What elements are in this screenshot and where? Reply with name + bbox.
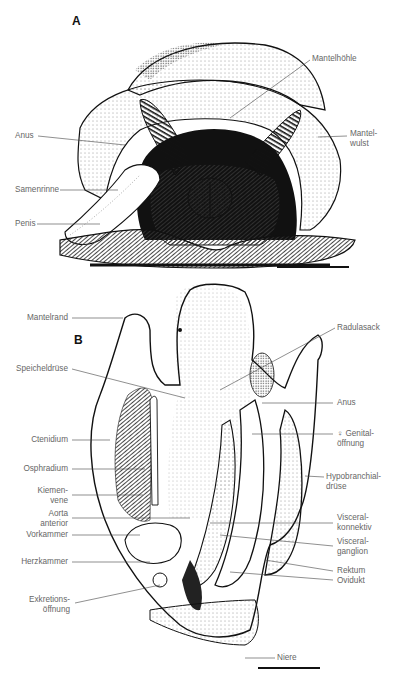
label-vorkammer: Vorkammer [0, 530, 68, 540]
label-ovidukt: Ovidukt [337, 576, 365, 586]
panel-b-letter: B [74, 333, 83, 347]
panel-b-drawing [91, 284, 322, 668]
label-visceralganglion: Visceral- ganglion [337, 537, 369, 556]
label-genitaloeffnung: ♀ Genital- öffnung [337, 429, 374, 448]
label-kiemenvene: Kiemen- vene [0, 486, 68, 505]
label-speicheldruese: Speicheldrüse [0, 364, 68, 374]
label-penis: Penis [15, 219, 35, 229]
label-exkretionsoeffnung: Exkretions- öffnung [0, 595, 70, 614]
label-mantelrand: Mantelrand [0, 313, 68, 323]
label-anus-b: Anus [337, 398, 356, 408]
label-mantelhoehle: Mantelhöhle [312, 54, 357, 64]
label-samenrinne: Samenrinne [15, 185, 59, 195]
label-radulasack: Radulasack [337, 323, 380, 333]
label-ctenidium: Ctenidium [0, 435, 68, 445]
anatomy-drawing [0, 0, 393, 677]
label-anus-a: Anus [15, 131, 34, 141]
label-aorta-anterior: Aorta anterior [0, 509, 68, 528]
label-hypobranchialdruese: Hypobranchial- drüse [326, 472, 381, 491]
panel-a-drawing [60, 43, 355, 268]
label-osphradium: Osphradium [0, 464, 68, 474]
label-rektum: Rektum [337, 566, 365, 576]
panel-a-letter: A [72, 14, 81, 28]
label-mantelwulst: Mantel- wulst [350, 129, 377, 148]
label-niere: Niere [277, 653, 297, 663]
label-herzkammer: Herzkammer [0, 557, 68, 567]
label-visceralkonnektiv: Visceral- konnektiv [337, 513, 372, 532]
